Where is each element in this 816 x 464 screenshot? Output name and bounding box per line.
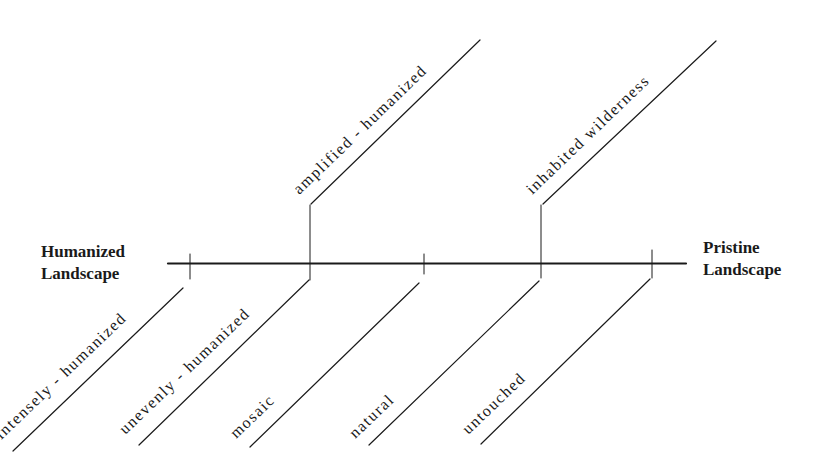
leader-inhabited-wilderness (543, 41, 716, 204)
leader-unevenly-humanized (139, 280, 309, 445)
left-endpoint-label: Humanized Landscape (41, 241, 125, 285)
leader-amplified-humanized (311, 40, 480, 204)
leader-natural (369, 281, 539, 445)
leader-mosaic (250, 283, 419, 447)
right-endpoint-label: Pristine Landscape (703, 237, 781, 281)
leader-untouched (481, 279, 650, 444)
